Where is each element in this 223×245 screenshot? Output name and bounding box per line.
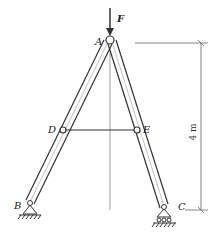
roller-support-icon: [152, 205, 176, 228]
pin-a-icon: [106, 36, 114, 44]
label-e: E: [142, 124, 151, 135]
a-frame-diagram: F A D E B C: [0, 0, 223, 245]
force-arrow-icon: [106, 8, 114, 36]
label-b: B: [13, 200, 21, 211]
member-ab: [26, 40, 112, 204]
label-c: C: [178, 201, 186, 212]
label-d: D: [47, 124, 56, 135]
member-ac: [108, 40, 168, 208]
pin-support-icon: [18, 201, 41, 220]
pin-e-icon: [134, 127, 140, 133]
force-label: F: [116, 13, 125, 24]
dimension-label: 4 m: [188, 123, 198, 141]
label-a: A: [94, 36, 102, 47]
pin-d-icon: [60, 127, 66, 133]
